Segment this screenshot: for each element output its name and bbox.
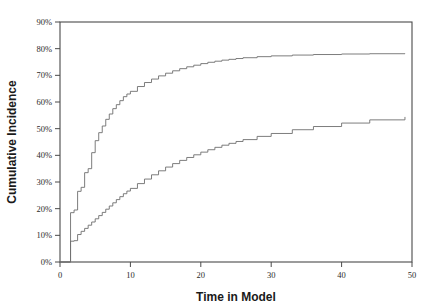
y-axis-title: Cumulative Incidence — [5, 80, 19, 204]
x-tick-label: 40 — [337, 270, 346, 280]
y-tick-label: 60% — [36, 97, 52, 107]
chart-screenshot: 0%10%20%30%40%50%60%70%80%90% 0102030405… — [0, 0, 434, 308]
y-tick-label: 90% — [36, 17, 52, 27]
y-tick-label: 50% — [36, 124, 52, 134]
y-tick-label: 70% — [36, 70, 52, 80]
y-tick-label: 80% — [36, 44, 52, 54]
y-tick-label: 0% — [41, 257, 52, 267]
y-tick-label: 20% — [36, 204, 52, 214]
y-tick-label: 30% — [36, 177, 52, 187]
cumulative-incidence-chart: 0%10%20%30%40%50%60%70%80%90% 0102030405… — [0, 0, 434, 308]
y-tick-label: 40% — [36, 150, 52, 160]
x-axis-title: Time in Model — [196, 290, 276, 304]
x-tick-label: 50 — [408, 270, 417, 280]
x-tick-label: 30 — [267, 270, 276, 280]
y-tick-label: 10% — [36, 230, 52, 240]
x-tick-label: 20 — [197, 270, 206, 280]
x-tick-label: 0 — [58, 270, 62, 280]
x-tick-label: 10 — [126, 270, 135, 280]
